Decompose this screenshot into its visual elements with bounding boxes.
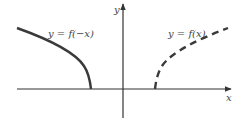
curve-label-f-neg-x: y = f(−x)	[47, 28, 94, 39]
x-axis-label: x	[226, 92, 232, 103]
curve-label-f-x: y = f(x)	[167, 28, 206, 39]
graph: y = f(−x) y = f(x) y x	[0, 0, 245, 127]
y-axis-label: y	[113, 4, 120, 15]
